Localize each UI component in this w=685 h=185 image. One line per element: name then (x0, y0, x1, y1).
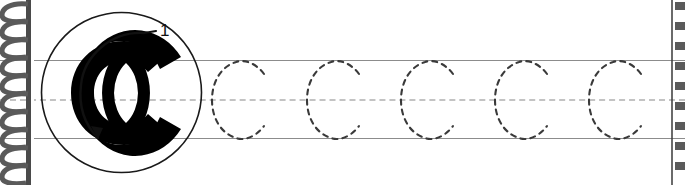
worksheet-page: Letter C handwriting tracing worksheet T… (0, 0, 685, 185)
spiral-binding (0, 0, 34, 185)
stroke-order-number: 1 (160, 21, 169, 40)
tracing-letter-2[interactable] (301, 57, 375, 143)
model-letter-glyph (71, 30, 181, 156)
model-letter-group: 1 (40, 11, 203, 174)
tracing-letter-1[interactable] (206, 57, 280, 143)
tracing-letter-4[interactable] (489, 57, 563, 143)
tracing-letter-5[interactable] (583, 57, 657, 143)
perforation-edge (669, 0, 685, 185)
tracing-letter-3[interactable] (395, 57, 469, 143)
